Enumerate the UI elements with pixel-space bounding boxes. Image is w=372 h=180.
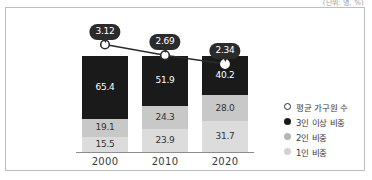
legend-item-label: 3인 이상 비중 xyxy=(296,116,345,128)
plot-area: 65.4 19.1 15.5 51.9 24.3 xyxy=(76,20,254,160)
value-bubble-2010[interactable]: 2.69 xyxy=(149,34,180,50)
bar-group-2020[interactable]: 40.2 28.0 31.7 xyxy=(202,56,248,152)
legend-item-one-person[interactable]: 1인 비중 xyxy=(284,145,370,158)
bar-segment-label: 65.4 xyxy=(95,83,114,92)
legend-item-three-or-more[interactable]: 3인 이상 비중 xyxy=(284,115,370,128)
bar-segment-three-plus[interactable]: 51.9 xyxy=(142,56,188,106)
unit-caption: (단위: 명, %) xyxy=(323,0,364,7)
gray-dot-marker-icon xyxy=(284,133,291,140)
black-dot-marker-icon xyxy=(284,118,291,125)
legend-item-average-household-size[interactable]: 평균 가구원 수 xyxy=(284,100,370,113)
bar-segment-label: 15.5 xyxy=(95,140,114,149)
axis-baseline xyxy=(76,152,254,153)
chart-figure: (단위: 명, %) 65.4 19.1 15.5 xyxy=(0,0,372,180)
x-axis-tick-labels: 2000 2010 2020 xyxy=(76,156,254,172)
bar-segment-two[interactable]: 24.3 xyxy=(142,106,188,129)
bar-segment-one[interactable]: 23.9 xyxy=(142,129,188,152)
bar-segment-label: 31.7 xyxy=(215,132,234,141)
legend-item-label: 평균 가구원 수 xyxy=(296,101,348,113)
bar-segment-label: 23.9 xyxy=(155,136,174,145)
bar-segment-label: 40.2 xyxy=(215,71,234,80)
bar-segment-label: 51.9 xyxy=(155,76,174,85)
chart-legend: 평균 가구원 수 3인 이상 비중 2인 비중 1인 비중 xyxy=(284,100,370,160)
bar-series-container: 65.4 19.1 15.5 51.9 24.3 xyxy=(76,56,254,152)
bar-group-2000[interactable]: 65.4 19.1 15.5 xyxy=(82,56,128,152)
x-tick-label-2020: 2020 xyxy=(202,156,248,167)
hollow-circle-marker-icon xyxy=(284,103,291,110)
bar-segment-label: 28.0 xyxy=(215,104,234,113)
bar-segment-one[interactable]: 31.7 xyxy=(202,121,248,151)
value-bubble-2000[interactable]: 3.12 xyxy=(89,24,120,40)
light-gray-dot-marker-icon xyxy=(284,148,291,155)
x-tick-label-2000: 2000 xyxy=(82,156,128,167)
bar-segment-label: 19.1 xyxy=(95,123,114,132)
x-tick-label-2010: 2010 xyxy=(142,156,188,167)
bar-segment-one[interactable]: 15.5 xyxy=(82,137,128,152)
bar-segment-three-plus[interactable]: 65.4 xyxy=(82,56,128,119)
legend-item-label: 1인 비중 xyxy=(296,146,327,158)
bar-segment-label: 24.3 xyxy=(155,113,174,122)
bar-group-2010[interactable]: 51.9 24.3 23.9 xyxy=(142,56,188,152)
legend-item-label: 2인 비중 xyxy=(296,131,327,143)
value-bubble-2020[interactable]: 2.34 xyxy=(209,43,240,59)
legend-item-two-person[interactable]: 2인 비중 xyxy=(284,130,370,143)
bar-segment-two[interactable]: 19.1 xyxy=(82,119,128,137)
chart-frame: 65.4 19.1 15.5 51.9 24.3 xyxy=(5,7,365,171)
bar-segment-two[interactable]: 28.0 xyxy=(202,95,248,122)
